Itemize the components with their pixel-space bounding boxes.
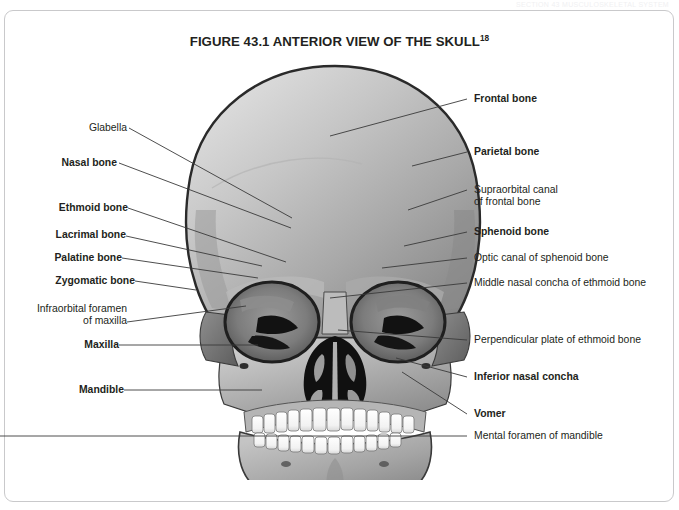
label-mandible: Mandible (79, 384, 124, 396)
label-mental-foramen: Mental foramen of mandible (474, 430, 603, 442)
label-sphenoid-bone: Sphenoid bone (474, 226, 549, 238)
label-supraorbital-canal: Supraorbital canal of frontal bone (474, 184, 558, 209)
figure-title: FIGURE 43.1 ANTERIOR VIEW OF THE SKULL18 (0, 33, 679, 49)
label-nasal-bone: Nasal bone (62, 157, 117, 169)
label-maxilla: Maxilla (84, 339, 119, 351)
figure-title-text: FIGURE 43.1 ANTERIOR VIEW OF THE SKULL (190, 34, 480, 49)
label-infraorbital-foramen: Infraorbital foramen of maxilla (37, 303, 127, 328)
label-perpendicular-plate: Perpendicular plate of ethmoid bone (474, 334, 641, 346)
label-zygomatic-bone: Zygomatic bone (55, 275, 135, 287)
page-header: SECTION 43 MUSCULOSKELETAL SYSTEM (516, 1, 669, 8)
label-lacrimal-bone: Lacrimal bone (56, 229, 126, 241)
label-glabella: Glabella (89, 122, 127, 134)
label-optic-canal: Optic canal of sphenoid bone (474, 252, 609, 264)
label-middle-nasal-concha: Middle nasal concha of ethmoid bone (474, 277, 646, 289)
figure-title-superscript: 18 (480, 33, 489, 43)
label-frontal-bone: Frontal bone (474, 93, 537, 105)
label-palatine-bone: Palatine bone (54, 252, 122, 264)
label-vomer: Vomer (474, 408, 506, 420)
label-parietal-bone: Parietal bone (474, 146, 539, 158)
label-ethmoid-bone: Ethmoid bone (59, 202, 128, 214)
skull-illustration (140, 60, 530, 480)
label-inferior-nasal-concha: Inferior nasal concha (474, 371, 579, 383)
